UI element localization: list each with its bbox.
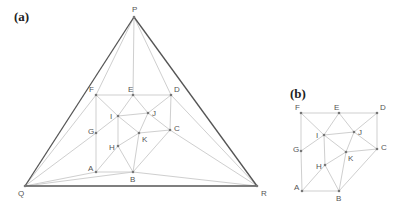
node-label-F: F bbox=[89, 85, 94, 94]
node-label-G: G bbox=[88, 127, 94, 136]
node-label-A: A bbox=[294, 183, 300, 192]
node-H bbox=[324, 164, 327, 167]
node-I bbox=[117, 115, 120, 118]
node-Q bbox=[24, 185, 27, 188]
node-label-I: I bbox=[110, 112, 112, 121]
node-label-H: H bbox=[316, 162, 322, 171]
node-label-B: B bbox=[336, 194, 341, 203]
node-E bbox=[338, 112, 341, 115]
node-P bbox=[133, 16, 136, 19]
node-D bbox=[376, 112, 379, 115]
edge-K-C bbox=[346, 149, 377, 152]
node-G bbox=[300, 150, 303, 153]
node-label-D: D bbox=[174, 85, 180, 94]
edge-H-B bbox=[325, 165, 339, 191]
edge-K-J bbox=[139, 113, 148, 133]
edge-E-I bbox=[324, 113, 339, 135]
node-K bbox=[345, 151, 348, 154]
node-label-Q: Q bbox=[18, 189, 24, 198]
node-label-G: G bbox=[293, 145, 299, 154]
edge-E-I bbox=[118, 95, 133, 116]
edge-E-J bbox=[339, 113, 354, 132]
node-label-A: A bbox=[88, 164, 94, 173]
edge-P-F bbox=[96, 17, 134, 95]
node-K bbox=[138, 132, 141, 135]
edge-F-I bbox=[96, 95, 118, 116]
edges-b bbox=[301, 113, 377, 191]
node-E bbox=[132, 94, 135, 97]
node-G bbox=[95, 132, 98, 135]
edge-E-J bbox=[133, 95, 148, 113]
edge-K-C bbox=[139, 130, 170, 133]
node-R bbox=[256, 185, 259, 188]
edge-H-K bbox=[118, 133, 139, 146]
edge-K-J bbox=[346, 132, 354, 152]
edge-C-B bbox=[339, 149, 377, 191]
edge-P-Q bbox=[25, 17, 134, 186]
node-F bbox=[300, 112, 303, 115]
panel-label-b: (b) bbox=[290, 86, 306, 101]
node-F bbox=[95, 94, 98, 97]
node-label-R: R bbox=[261, 189, 267, 198]
edge-R-D bbox=[171, 95, 257, 186]
edge-I-K bbox=[118, 116, 139, 133]
edge-H-B bbox=[118, 146, 133, 172]
node-C bbox=[376, 148, 379, 151]
node-label-F: F bbox=[295, 103, 300, 112]
edge-G-I bbox=[96, 116, 118, 133]
node-J bbox=[147, 112, 150, 115]
graph-diagram: PQRFEDIJGCKHAB(a)FEDIJGCKHAB(b) bbox=[0, 0, 404, 209]
node-label-J: J bbox=[358, 128, 362, 137]
node-label-H: H bbox=[109, 143, 115, 152]
edge-P-E bbox=[133, 17, 134, 95]
node-label-E: E bbox=[128, 85, 133, 94]
node-D bbox=[170, 94, 173, 97]
edge-P-D bbox=[134, 17, 171, 95]
node-label-J: J bbox=[152, 109, 156, 118]
edge-G-A bbox=[301, 151, 302, 191]
node-J bbox=[353, 131, 356, 134]
node-label-E: E bbox=[334, 103, 339, 112]
edge-I-J bbox=[118, 113, 148, 116]
node-A bbox=[95, 171, 98, 174]
panel-label-a: (a) bbox=[14, 9, 29, 24]
edge-I-K bbox=[324, 135, 346, 152]
edge-H-K bbox=[325, 152, 346, 165]
node-label-I: I bbox=[316, 131, 318, 140]
node-H bbox=[117, 145, 120, 148]
edge-P-R bbox=[134, 17, 257, 186]
node-label-C: C bbox=[381, 143, 387, 152]
edge-I-J bbox=[324, 132, 354, 135]
node-C bbox=[169, 129, 172, 132]
node-label-C: C bbox=[174, 124, 180, 133]
node-label-K: K bbox=[348, 154, 354, 163]
node-label-B: B bbox=[130, 175, 135, 184]
node-label-D: D bbox=[380, 103, 386, 112]
edge-I-H bbox=[324, 135, 325, 165]
edges-a bbox=[25, 17, 257, 186]
node-label-P: P bbox=[132, 5, 137, 14]
edge-G-I bbox=[301, 135, 324, 151]
node-I bbox=[323, 134, 326, 137]
node-A bbox=[301, 190, 304, 193]
panel-b: FEDIJGCKHAB(b) bbox=[290, 86, 387, 203]
panel-a: PQRFEDIJGCKHAB(a) bbox=[14, 5, 267, 198]
edge-Q-A bbox=[25, 172, 96, 186]
edge-F-I bbox=[301, 113, 324, 135]
node-B bbox=[132, 171, 135, 174]
node-B bbox=[338, 190, 341, 193]
edge-D-C bbox=[170, 95, 171, 130]
node-label-K: K bbox=[142, 135, 148, 144]
